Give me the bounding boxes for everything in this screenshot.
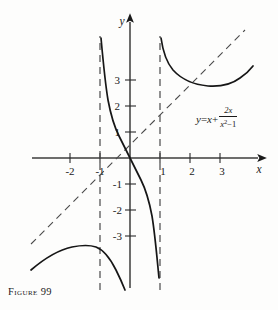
oblique-asymptote-y-equals-x [31, 30, 245, 244]
figure-99-container: -2 -1 1 2 3 3 2 1 -1 -2 -3 x y y=x+2x [0, 0, 278, 310]
figure-caption-number: 99 [41, 286, 52, 297]
x-tick-label-1: 1 [160, 165, 166, 177]
curve-group [31, 38, 253, 290]
equation-annotation: y=x+2xx2−1 [196, 106, 237, 129]
equation-plus: + [212, 113, 218, 125]
y-tick-label--2: -2 [113, 204, 122, 216]
x-tick-label-3: 3 [219, 165, 225, 177]
equation-denominator-rest: −1 [227, 118, 236, 128]
function-plot: -2 -1 1 2 3 3 2 1 -1 -2 -3 x y [0, 0, 278, 310]
x-axis-label: x [255, 163, 262, 175]
equation-denominator: x2−1 [219, 116, 237, 129]
x-tick-labels: -2 -1 1 2 3 [65, 165, 225, 177]
y-tick-label-3: 3 [115, 74, 121, 86]
curve-branch-left [31, 246, 125, 291]
equation-fraction: 2xx2−1 [219, 106, 237, 129]
y-tick-label--3: -3 [113, 230, 123, 242]
y-axis-label: y [118, 15, 125, 28]
y-tick-label--1: -1 [113, 178, 122, 190]
curve-branch-right [161, 38, 253, 86]
y-tick-label-2: 2 [115, 100, 121, 112]
figure-caption: Figure 99 [8, 286, 52, 297]
x-tick-label--2: -2 [65, 165, 74, 177]
x-tick-label-2: 2 [189, 165, 195, 177]
equation-numerator: 2x [219, 106, 237, 116]
figure-caption-word: Figure [8, 286, 38, 297]
